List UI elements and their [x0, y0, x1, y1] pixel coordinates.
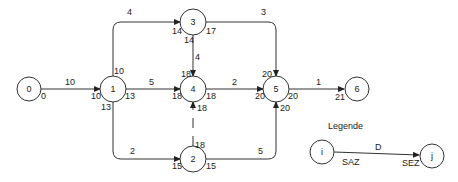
time-label: 18: [181, 70, 191, 79]
node-2-label: 2: [190, 155, 195, 164]
time-label: 14: [172, 27, 182, 36]
time-label: 13: [101, 103, 111, 112]
edge-1-2: [113, 102, 180, 159]
time-label: 18: [172, 92, 182, 101]
edge-2-5: [206, 102, 276, 159]
node-4-label: 4: [190, 85, 195, 94]
duration-1-2: 2: [130, 147, 135, 156]
time-label: 13: [125, 92, 135, 101]
legend-node-j-label: j: [431, 152, 433, 161]
time-label: 15: [206, 162, 216, 171]
legend-node-i-label: i: [321, 148, 323, 157]
network-diagram: 0 1 3 4 2 5 6 10 4 5 2 4 3 2 5 1 0 10 10…: [0, 0, 458, 182]
node-3-label: 3: [190, 18, 195, 27]
duration-5-6: 1: [316, 78, 321, 87]
duration-3-4: 4: [195, 53, 200, 62]
diagram-graphics: [0, 0, 458, 182]
time-label: 18: [195, 141, 205, 150]
time-label: 0: [41, 92, 46, 101]
time-label: 14: [184, 36, 194, 45]
legend-end-label: SEZ: [402, 159, 420, 168]
time-label: 20: [255, 92, 265, 101]
time-label: 17: [206, 27, 216, 36]
time-label: 10: [114, 67, 124, 76]
time-label: 15: [172, 162, 182, 171]
legend-duration-label: D: [375, 143, 382, 152]
node-1-label: 1: [110, 85, 115, 94]
time-label: 10: [91, 92, 101, 101]
duration-3-5: 3: [261, 8, 266, 17]
time-label: 20: [280, 104, 290, 113]
node-6-label: 6: [354, 85, 359, 94]
legend-start-label: SAZ: [342, 158, 360, 167]
duration-2-5: 5: [258, 147, 263, 156]
duration-1-3: 4: [127, 8, 132, 17]
edge-3-5: [206, 22, 276, 76]
duration-4-5: 2: [232, 78, 237, 87]
node-0-label: 0: [26, 85, 31, 94]
duration-1-4: 5: [149, 78, 154, 87]
legend-edge: [334, 152, 419, 155]
time-label: 18: [197, 104, 207, 113]
node-5-label: 5: [273, 85, 278, 94]
duration-0-1: 10: [65, 78, 75, 87]
time-label: 20: [288, 92, 298, 101]
time-label: 21: [335, 93, 345, 102]
time-label: 20: [262, 70, 272, 79]
time-label: 18: [206, 92, 216, 101]
legend-title: Legende: [328, 122, 363, 131]
